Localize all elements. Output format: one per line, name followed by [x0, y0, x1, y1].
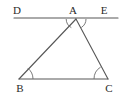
side-AC — [76, 19, 108, 79]
vertex-label-C: C — [105, 82, 112, 94]
vertex-label-B: B — [16, 82, 23, 94]
angle-arc-ACB — [94, 67, 101, 79]
vertex-label-D: D — [13, 4, 21, 16]
geometry-figure: D A E B C — [0, 0, 125, 96]
vertex-label-A: A — [69, 4, 77, 16]
geometry-canvas: D A E B C — [0, 0, 125, 96]
vertex-label-E: E — [101, 4, 108, 16]
angle-arc-CAE — [81, 19, 86, 28]
angle-arc-ABC — [28, 68, 33, 79]
side-AB — [19, 19, 76, 79]
